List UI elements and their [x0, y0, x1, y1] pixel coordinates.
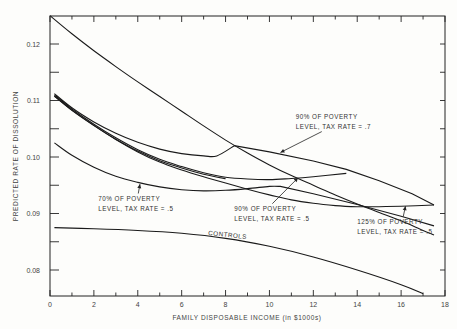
- annotation-label: LEVEL, TAX RATE = .5: [234, 215, 309, 222]
- annotation-label: 90% OF POVERTY: [296, 113, 358, 120]
- annotation: 90% OF POVERTYLEVEL, TAX RATE = .5: [234, 178, 309, 222]
- annotation-label: LEVEL, TAX RATE = .5: [98, 205, 173, 212]
- annotation: 70% OF POVERTYLEVEL, TAX RATE = .5: [98, 184, 173, 211]
- x-tick-label: 16: [397, 301, 405, 308]
- y-tick-label: 0.12: [26, 41, 40, 48]
- annotation-label: 90% OF POVERTY: [234, 205, 296, 212]
- x-tick-label: 10: [266, 301, 274, 308]
- x-axis-title: FAMILY DISPOSABLE INCOME (in $1000s): [172, 314, 321, 322]
- annotation-label: LEVEL, TAX RATE = .5: [357, 228, 432, 235]
- y-tick-label: 0.10: [26, 154, 40, 161]
- dissolution-rate-chart: 024681012141618 0.080.090.100.110.12 90%…: [0, 0, 457, 329]
- annotation: 90% OF POVERTYLEVEL, TAX RATE = .7: [280, 113, 371, 153]
- y-tick-label: 0.09: [26, 210, 40, 217]
- axis-ticks: [50, 16, 445, 296]
- curve-bundle-strand: [54, 96, 225, 179]
- x-tick-label: 18: [441, 301, 449, 308]
- x-tick-label: 14: [353, 301, 361, 308]
- x-tick-label: 4: [136, 301, 140, 308]
- x-tick-label: 8: [224, 301, 228, 308]
- y-tick-label: 0.08: [26, 267, 40, 274]
- x-tick-label: 12: [309, 301, 317, 308]
- x-tick-labels: 024681012141618: [48, 301, 449, 308]
- annotation-label: 125% OF POVERTY: [357, 218, 423, 225]
- x-tick-label: 0: [48, 301, 52, 308]
- annotation-arrow: [280, 132, 321, 153]
- y-axis-title: PREDICTED RATE OF DISSOLUTION: [12, 91, 19, 221]
- curve-70-of-poverty-level-tax-rate-5: [54, 143, 434, 226]
- y-tick-label: 0.11: [27, 97, 40, 104]
- curve-90-of-poverty-level-tax-rate-5: [54, 95, 346, 180]
- curve-steep-curve-unlabeled: [50, 16, 434, 235]
- arrowhead-icon: [137, 184, 141, 188]
- x-tick-label: 6: [180, 301, 184, 308]
- annotation: 125% OF POVERTYLEVEL, TAX RATE = .5: [357, 206, 432, 235]
- annotation-label: LEVEL, TAX RATE = .7: [296, 123, 371, 130]
- x-tick-label: 2: [92, 301, 96, 308]
- plot-frame: [50, 16, 445, 296]
- y-tick-labels: 0.080.090.100.110.12: [26, 41, 40, 274]
- arrowhead-icon: [403, 206, 407, 210]
- annotation-label: 70% OF POVERTY: [98, 195, 160, 202]
- annotations: 90% OF POVERTYLEVEL, TAX RATE = .770% OF…: [98, 113, 432, 240]
- plot-curves: [50, 16, 434, 294]
- annotation-arrow: [272, 178, 298, 204]
